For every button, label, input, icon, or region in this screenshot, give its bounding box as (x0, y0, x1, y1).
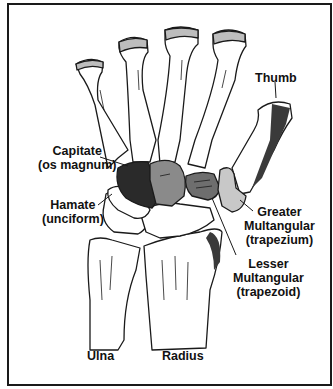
label-lesser-multangular-line-2: Multangular (233, 271, 304, 285)
label-thumb-line-1: Thumb (255, 71, 297, 85)
label-radius-line-1: Radius (162, 349, 204, 363)
trapezoid-bone (186, 172, 220, 200)
label-ulna-line-1: Ulna (87, 349, 114, 363)
label-radius: Radius (162, 349, 204, 363)
metacarpal-middle-finger (158, 27, 198, 164)
label-hamate: Hamate (unciform) (42, 198, 104, 226)
label-greater-multangular-line-2: Multangular (244, 219, 315, 233)
label-ulna: Ulna (87, 349, 114, 363)
middle-carpal-bone (150, 160, 185, 206)
label-capitate-line-1: Capitate (38, 144, 116, 158)
label-hamate-line-1: Hamate (42, 198, 104, 212)
label-capitate: Capitate (os magnum) (38, 144, 116, 172)
metacarpal-thumb (232, 102, 292, 194)
label-hamate-line-2: (unciform) (42, 212, 104, 226)
metacarpal-index-finger (188, 30, 246, 168)
label-greater-multangular-line-1: Greater (244, 205, 315, 219)
label-capitate-line-2: (os magnum) (38, 158, 116, 172)
label-greater-multangular: Greater Multangular (trapezium) (244, 205, 315, 247)
label-lesser-multangular: Lesser Multangular (trapezoid) (233, 257, 304, 299)
label-lesser-multangular-line-1: Lesser (233, 257, 304, 271)
label-greater-multangular-line-3: (trapezium) (244, 233, 315, 247)
label-lesser-multangular-line-3: (trapezoid) (233, 285, 304, 299)
label-thumb: Thumb (255, 71, 297, 85)
ulna-bone (88, 238, 140, 350)
wrist-bones-illustration (0, 0, 333, 389)
radius-bone (144, 229, 222, 350)
